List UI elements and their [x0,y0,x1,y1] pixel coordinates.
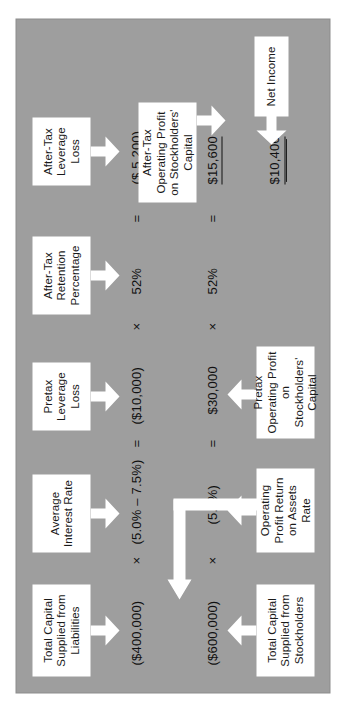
arrow-capital-liabilities [90,614,120,646]
label-net-income: Net Income [254,36,288,116]
label-operating-profit-return-on-assets-rate: Operating Profit Return on Assets Rate [256,468,314,552]
arrow-after-tax-operating-profit [196,104,226,136]
diagram-stage: Total Capital Supplied from Liabilities … [0,0,345,711]
label-pretax-operating-profit-on-stockholders-capital: Pretax Operating Profit on Stockholders'… [256,346,314,438]
arrow-capital-stockholders [226,614,256,646]
label-after-tax-retention-percentage: After-Tax Retention Percentage [32,236,90,314]
label-total-capital-stockholders: Total Capital Supplied from Stockholders [256,584,314,676]
label-average-interest-rate: Average Interest Rate [32,474,90,552]
operator-leverage-times-1: × [128,556,143,564]
operator-operating-times-1: × [204,556,219,564]
value-leverage-rate: (5.0% – 7.5%) [128,459,143,544]
operator-operating-times-2: × [204,322,219,330]
value-operating-retention: 52% [204,267,219,294]
arrow-net-income [255,115,287,145]
value-operating-after-tax: $15,600 [204,136,222,184]
operator-leverage-equals-2: = [128,214,143,222]
value-leverage-retention: 52% [128,267,143,294]
operator-leverage-times-2: × [128,322,143,330]
value-leverage-capital: ($400,000) [128,600,143,665]
value-operating-capital: ($600,000) [204,600,219,665]
arrow-operating-profit-return-rate-stem [173,498,261,510]
diagram-canvas: Total Capital Supplied from Liabilities … [16,19,329,692]
operator-operating-equals-1: = [204,439,219,447]
arrow-pretax-leverage-loss [90,380,120,412]
value-operating-pretax: $30,000 [204,366,219,414]
operator-operating-equals-2: = [204,214,219,222]
arrow-after-tax-leverage-loss [90,135,120,167]
arrow-operating-profit-return-rate-left [166,498,192,600]
arrow-after-tax-retention-percentage [90,259,120,291]
arrow-average-interest-rate [90,497,120,529]
label-after-tax-leverage-loss: After-Tax Leverage Loss [32,117,90,185]
label-pretax-leverage-loss: Pretax Leverage Loss [32,362,90,430]
label-after-tax-operating-profit-on-stockholders-capital: After-Tax Operating Profit on Stockholde… [138,102,196,202]
label-total-capital-liabilities: Total Capital Supplied from Liabilities [32,584,90,676]
operator-leverage-equals-1: = [128,439,143,447]
arrow-pretax-operating-profit-up [226,378,256,410]
value-leverage-pretax: ($10,000) [128,367,143,424]
